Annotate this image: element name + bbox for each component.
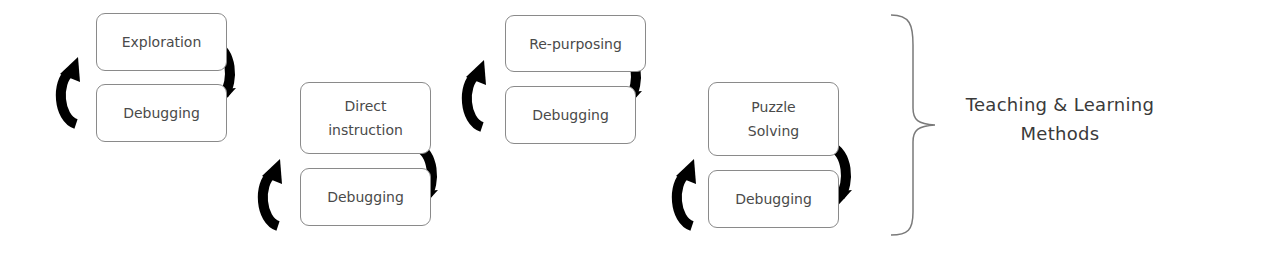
- method-box-puzzle-solving: Puzzle Solving: [708, 82, 839, 156]
- brace: [891, 15, 935, 235]
- method-box-exploration: Exploration: [96, 13, 227, 71]
- debugging-box-1: Debugging: [96, 84, 227, 142]
- method-box-direct-instruction: Direct instruction: [300, 82, 431, 154]
- group-label: Teaching & Learning Methods: [945, 90, 1175, 148]
- debugging-box-4: Debugging: [708, 170, 839, 228]
- debugging-box-2: Debugging: [300, 168, 431, 226]
- method-box-re-purposing: Re-purposing: [505, 15, 646, 72]
- debugging-box-3: Debugging: [505, 86, 636, 144]
